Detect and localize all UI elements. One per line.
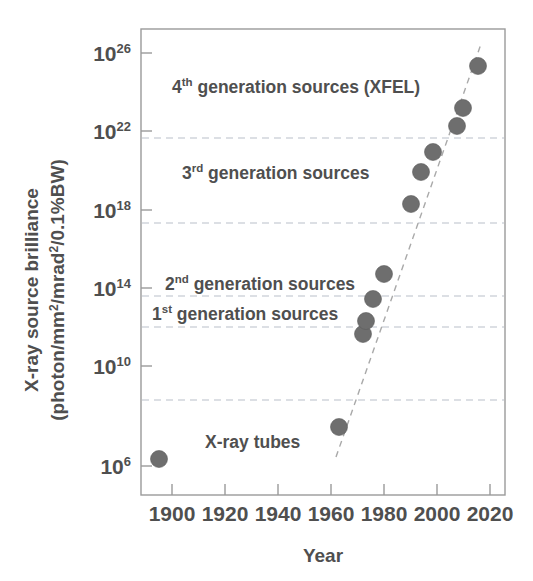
data-point [331,419,348,436]
data-point [449,118,466,135]
xray-brilliance-chart: 1026 1022 1018 1014 1010 106 1900 1920 1… [0,0,533,581]
x-tick-label-1920: 1920 [202,502,249,525]
x-axis-title: Year [303,545,344,566]
x-tick-label-1900: 1900 [149,502,196,525]
x-tick-labels: 1900 1920 1940 1960 1980 2000 2020 [149,502,514,525]
y-axis-title-line1: X-ray source brilliance [21,188,42,392]
data-point [470,58,487,75]
data-point [403,196,420,213]
y-tick-label-1e6: 106 [100,454,131,478]
y-tick-label-1e18: 1018 [93,198,131,222]
data-point [425,144,442,161]
data-point [376,266,393,283]
chart-svg: 1026 1022 1018 1014 1010 106 1900 1920 1… [0,0,533,581]
annotation-xray-tubes: X-ray tubes [205,432,301,452]
y-tick-label-1e22: 1022 [93,119,131,143]
x-tick-label-2000: 2000 [414,502,461,525]
plot-frame [141,29,505,495]
y-tick-label-1e14: 1014 [93,276,132,300]
annotation-3rd-generation: 3rd generation sources [182,162,370,183]
x-tick-label-1940: 1940 [255,502,302,525]
annotation-2nd-generation: 2nd generation sources [165,273,355,294]
x-tick-label-1980: 1980 [361,502,408,525]
y-axis-title: X-ray source brilliance (photon/mm2/mrad… [21,159,68,420]
data-point [151,451,168,468]
x-tick-label-2020: 2020 [467,502,514,525]
data-point [413,164,430,181]
y-tick-label-1e26: 1026 [93,41,131,65]
annotation-1st-generation: 1st generation sources [152,303,339,324]
data-point [358,313,375,330]
annotation-4th-generation: 4th generation sources (XFEL) [172,76,420,97]
data-point [455,100,472,117]
y-axis-title-line2: (photon/mm2/mrad2/0.1%BW) [47,159,68,420]
y-tick-label-1e10: 1010 [93,354,131,378]
y-tick-labels: 1026 1022 1018 1014 1010 106 [93,41,132,478]
data-point [365,291,382,308]
x-tick-label-1960: 1960 [308,502,355,525]
